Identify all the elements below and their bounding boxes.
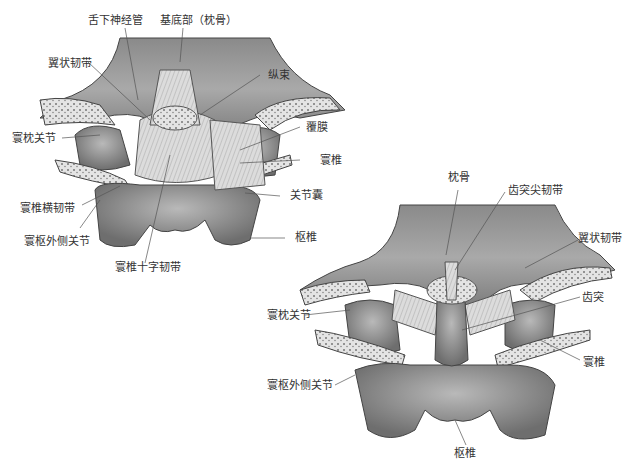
label-atlanto-occipital-joint-left: 寰枕关节 [12,133,56,145]
label-occipital-bone: 枕骨 [448,172,470,184]
label-alar-ligament-right: 翼状韧带 [578,233,622,245]
label-joint-capsule: 关节囊 [290,190,323,202]
label-hypoglossal-canal: 舌下神经管 [88,15,143,27]
label-alar-ligament-left: 翼状韧带 [48,58,92,70]
label-transverse-ligament: 寰椎横韧带 [20,203,75,215]
label-longitudinal-band: 纵束 [268,70,290,82]
label-basilar-part: 基底部（枕骨） [160,15,237,27]
label-lateral-atlantoaxial-joint-left: 寰枢外侧关节 [24,236,90,248]
label-cruciate-ligament: 寰椎十字韧带 [115,262,181,274]
label-lateral-atlantoaxial-joint-right: 寰枢外侧关节 [267,380,333,392]
label-atlas-right: 寰椎 [583,357,605,369]
right-figure [300,205,615,439]
label-apical-ligament: 齿突尖韧带 [508,185,563,197]
label-axis-right: 枢椎 [454,448,476,460]
label-tectorial-membrane: 覆膜 [306,122,328,134]
label-dens: 齿突 [582,292,604,304]
label-axis-left: 枢椎 [295,232,317,244]
label-atlanto-occipital-joint-right: 寰枕关节 [267,310,311,322]
label-atlas-left: 寰椎 [320,155,342,167]
